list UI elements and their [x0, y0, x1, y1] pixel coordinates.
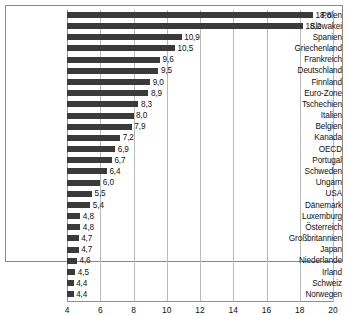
- chart-category-label: OECD: [284, 144, 342, 155]
- chart-value-label: 9,5: [161, 65, 172, 76]
- chart-value-label: 6,0: [103, 177, 114, 188]
- chart-x-tick-label: 10: [162, 305, 171, 315]
- chart-category-label: Schweiz: [284, 278, 342, 289]
- chart-x-tick-label: 8: [131, 305, 136, 315]
- chart-bar-row: Finnland9,0: [6, 77, 342, 88]
- chart-value-label: 8,9: [151, 88, 162, 99]
- chart-bar-row: Irland4,5: [6, 267, 342, 278]
- chart-bar: [67, 68, 158, 74]
- chart-category-label: Dänemark: [284, 200, 342, 211]
- chart-category-label: Frankreich: [284, 54, 342, 65]
- chart-bar-row: Norwegen4,4: [6, 289, 342, 300]
- chart-plot-area: Polen18,8Slowakei18,2Spanien10,9Griechen…: [6, 6, 342, 261]
- chart-bar-row: Schweiz4,4: [6, 278, 342, 289]
- chart-value-label: 4,5: [78, 267, 89, 278]
- chart-category-label: Belgien: [284, 121, 342, 132]
- chart-value-label: 4,4: [76, 289, 87, 300]
- chart-bar-row: Schweden6,4: [6, 166, 342, 177]
- chart-bar: [67, 235, 79, 241]
- chart-bar-row: Italien8,0: [6, 110, 342, 121]
- chart-value-label: 6,4: [109, 166, 120, 177]
- chart-x-tick-label: 20: [328, 305, 337, 315]
- chart-category-label: Deutschland: [284, 65, 342, 76]
- chart-bar: [67, 157, 112, 163]
- chart-value-label: 7,2: [123, 132, 134, 143]
- chart-value-label: 4,4: [76, 278, 87, 289]
- chart-value-label: 10,5: [178, 43, 194, 54]
- chart-category-label: Irland: [284, 267, 342, 278]
- chart-bar: [67, 79, 150, 85]
- chart-category-label: Schweden: [284, 166, 342, 177]
- chart-bar-row: Großbritannien4,7: [6, 233, 342, 244]
- chart-category-label: Kanada: [284, 132, 342, 143]
- chart-category-label: Euro-Zone: [284, 88, 342, 99]
- chart-value-label: 6,9: [118, 144, 129, 155]
- chart-value-label: 18,8: [316, 10, 332, 21]
- chart-value-label: 6,7: [114, 155, 125, 166]
- chart-value-label: 9,0: [153, 77, 164, 88]
- chart-bar: [67, 113, 134, 119]
- chart-value-label: 18,2: [306, 21, 322, 32]
- chart-bar: [67, 291, 74, 297]
- chart-bar: [67, 191, 92, 197]
- chart-value-label: 5,4: [93, 200, 104, 211]
- chart-value-label: 10,9: [184, 32, 200, 43]
- chart-bar: [67, 34, 182, 40]
- chart-bar: [67, 45, 175, 51]
- chart-category-label: Portugal: [284, 155, 342, 166]
- chart-bar: [67, 12, 313, 18]
- chart-bar: [67, 168, 107, 174]
- chart-bar: [67, 124, 132, 130]
- chart-x-tick-label: 18: [295, 305, 304, 315]
- chart-value-label: 8,0: [136, 110, 147, 121]
- chart-value-label: 5,5: [94, 188, 105, 199]
- chart-x-tick-label: 16: [262, 305, 271, 315]
- chart-category-label: Spanien: [284, 32, 342, 43]
- chart-bar-row: Portugal6,7: [6, 155, 342, 166]
- chart-bar-row: Niederlande4,6: [6, 255, 342, 266]
- chart-bar: [67, 146, 115, 152]
- chart-x-axis: [67, 301, 333, 302]
- chart-bar: [67, 213, 80, 219]
- chart-value-label: 8,3: [141, 99, 152, 110]
- chart-bar-row: Griechenland10,5: [6, 43, 342, 54]
- chart-bar-row: Slowakei18,2: [6, 21, 342, 32]
- chart-bar-row: Polen18,8: [6, 10, 342, 21]
- chart-bar-row: Kanada7,2: [6, 132, 342, 143]
- chart-category-label: Griechenland: [284, 43, 342, 54]
- chart-bar-row: Japan4,7: [6, 244, 342, 255]
- chart-x-tick-label: 14: [229, 305, 238, 315]
- chart-bar-row: Luxemburg4,8: [6, 211, 342, 222]
- chart-x-tick-label: 6: [98, 305, 103, 315]
- chart-category-label: Italien: [284, 110, 342, 121]
- chart-bar-row: Euro-Zone8,9: [6, 88, 342, 99]
- chart-bar: [67, 135, 120, 141]
- chart-bar-row: Tschechien8,3: [6, 99, 342, 110]
- chart-value-label: 9,6: [163, 54, 174, 65]
- chart-bar: [67, 23, 303, 29]
- chart-value-label: 4,8: [83, 222, 94, 233]
- chart-x-tick-label: 12: [195, 305, 204, 315]
- chart-category-label: Niederlande: [284, 255, 342, 266]
- chart-value-label: 7,9: [134, 121, 145, 132]
- chart-category-label: Großbritannien: [284, 233, 342, 244]
- chart-bar: [67, 90, 148, 96]
- chart-bar: [67, 202, 90, 208]
- chart-bar-row: OECD6,9: [6, 144, 342, 155]
- chart-value-label: 4,6: [79, 255, 90, 266]
- chart-category-label: Tschechien: [284, 99, 342, 110]
- chart-bar-row: Spanien10,9: [6, 32, 342, 43]
- chart-category-label: Ungarn: [284, 177, 342, 188]
- chart-category-label: Norwegen: [284, 289, 342, 300]
- chart-bar: [67, 180, 100, 186]
- chart-value-label: 4,8: [83, 211, 94, 222]
- chart-bar-row: USA5,5: [6, 188, 342, 199]
- chart-bar-row: Belgien7,9: [6, 121, 342, 132]
- chart-category-label: Japan: [284, 244, 342, 255]
- chart-value-label: 4,7: [81, 233, 92, 244]
- chart-bar: [67, 224, 80, 230]
- chart-category-label: Österreich: [284, 222, 342, 233]
- chart-bar: [67, 280, 74, 286]
- chart-category-label: Luxemburg: [284, 211, 342, 222]
- chart-bar: [67, 269, 75, 275]
